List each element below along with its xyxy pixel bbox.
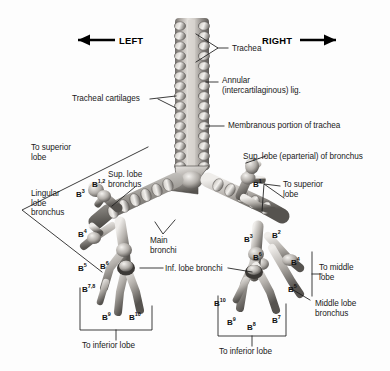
direction-right-label: RIGHT bbox=[262, 35, 292, 46]
segment-right-b7: B7 bbox=[272, 316, 281, 325]
segment-left-b3: B3 bbox=[76, 190, 85, 199]
segment-left-b12: B1,2 bbox=[92, 180, 105, 189]
label-annular-ligament: Annular (intercartilaginous) lig. bbox=[222, 76, 301, 95]
direction-left-label: LEFT bbox=[119, 35, 143, 46]
segment-left-b10: B10 bbox=[129, 313, 141, 322]
label-to-superior-lobe-right: To superior lobe bbox=[283, 180, 323, 199]
segment-left-b4: B4 bbox=[78, 230, 87, 239]
label-to-inferior-lobe-left: To inferior lobe bbox=[82, 341, 135, 351]
label-to-middle-lobe: To middle lobe bbox=[319, 263, 354, 282]
label-to-superior-lobe-left: To superior lobe bbox=[31, 143, 71, 162]
segment-left-b78: B7,8 bbox=[82, 285, 95, 294]
segment-right-b6: B6 bbox=[253, 253, 262, 262]
segment-left-b9: B9 bbox=[102, 313, 111, 322]
label-inf-lobe-bronchi: Inf. lobe bronchi bbox=[165, 264, 222, 274]
segment-left-b5: B5 bbox=[78, 264, 87, 273]
segment-right-b10: B10 bbox=[214, 299, 226, 308]
label-sup-lobe-bronchus: Sup. lobe bronchus bbox=[108, 170, 142, 189]
label-lingular-lobe-bronchus: Lingular lobe bronchus bbox=[31, 189, 64, 218]
segment-right-b8: B8 bbox=[247, 323, 256, 332]
segment-right-b1: B1 bbox=[253, 180, 262, 189]
segment-right-b3: B3 bbox=[244, 235, 253, 244]
segment-right-b4: B4 bbox=[291, 258, 300, 267]
label-trachea: Trachea bbox=[232, 44, 261, 54]
label-membranous-portion: Membranous portion of trachea bbox=[228, 121, 340, 131]
arrow-right-icon bbox=[300, 35, 336, 46]
arrow-left-icon bbox=[78, 35, 115, 46]
label-sup-lobe-eparterial: Sup. lobe (eparterial) of bronchus bbox=[243, 152, 363, 162]
segment-right-b5: B5 bbox=[288, 285, 297, 294]
label-tracheal-cartilages: Tracheal cartilages bbox=[72, 94, 140, 104]
segment-right-b2: B2 bbox=[272, 231, 281, 240]
segment-left-b6: B6 bbox=[100, 262, 109, 271]
label-main-bronchi: Main bronchi bbox=[150, 236, 177, 255]
tracheobronchial-tree-figure: LEFT RIGHT Trachea Annular (intercartila… bbox=[0, 0, 390, 371]
label-to-inferior-lobe-right: To inferior lobe bbox=[219, 347, 272, 357]
segment-right-b9: B9 bbox=[227, 318, 236, 327]
label-middle-lobe-bronchus: Middle lobe bronchus bbox=[315, 299, 356, 318]
